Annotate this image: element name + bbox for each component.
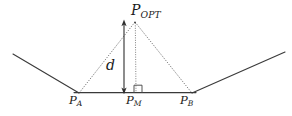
label-p-m-sub: M [134, 99, 142, 108]
label-distance-d: d [106, 58, 115, 72]
label-p-a-sub: A [77, 99, 83, 108]
p-opt-vertex [134, 21, 136, 23]
label-p-opt: POPT [131, 3, 161, 19]
label-p-b: PB [180, 95, 194, 108]
label-p-opt-base: P [131, 2, 140, 18]
geometry-figure: POPT d PA PM PB [0, 0, 292, 116]
right-angle-icon [134, 85, 142, 93]
label-p-m-base: P [126, 93, 134, 107]
label-p-a: PA [69, 95, 82, 108]
label-p-b-base: P [180, 93, 188, 107]
label-p-a-base: P [69, 93, 77, 107]
label-p-m: PM [126, 95, 142, 108]
altitude-line [135, 23, 136, 93]
right-slope-line [192, 52, 285, 93]
triangle-right-edge [135, 22, 192, 93]
label-p-b-sub: B [188, 99, 194, 108]
left-slope-line [13, 54, 79, 93]
label-p-opt-sub: OPT [140, 9, 161, 20]
